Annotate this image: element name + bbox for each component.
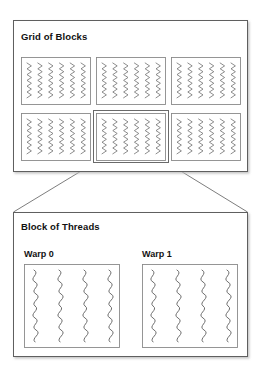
- block-1-2-frame: [172, 114, 241, 161]
- block-0-0-frame: [22, 58, 91, 105]
- warp-1-label: Warp 1: [142, 249, 172, 259]
- block-1-2[interactable]: [172, 114, 241, 161]
- diagram-svg: [0, 0, 261, 382]
- warp-1-frame: [143, 265, 238, 348]
- block-1-1-frame: [97, 114, 166, 161]
- block-1-0-frame: [22, 114, 91, 161]
- block-0-1-frame: [97, 58, 166, 105]
- block-1-0[interactable]: [22, 114, 91, 161]
- warp-0-label: Warp 0: [24, 249, 54, 259]
- block-panel-title: Block of Threads: [21, 221, 100, 232]
- block-0-2-frame: [172, 58, 241, 105]
- block-0-2[interactable]: [172, 58, 241, 105]
- block-1-1[interactable]: [94, 111, 169, 163]
- grid-panel-title: Grid of Blocks: [21, 31, 87, 42]
- warp-0-frame: [25, 265, 120, 348]
- block-0-1[interactable]: [97, 58, 166, 105]
- warp-1[interactable]: [143, 265, 238, 348]
- block-0-0[interactable]: [22, 58, 91, 105]
- diagram-canvas: Grid of Blocks Block of Threads Warp 0 W…: [0, 0, 261, 382]
- warp-0[interactable]: [25, 265, 120, 348]
